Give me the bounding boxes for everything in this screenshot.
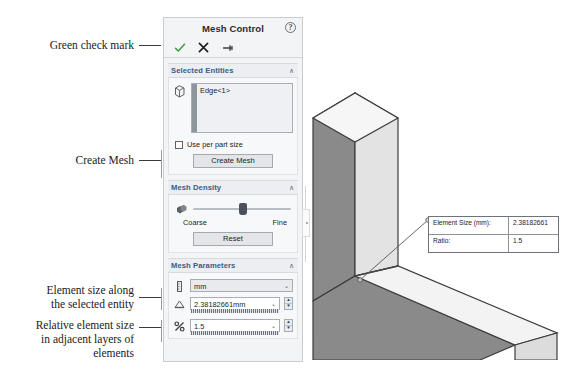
panel-title-bar: Mesh Control ?	[164, 18, 302, 38]
ratio-stepper[interactable]: ▲ ▼	[284, 319, 293, 332]
element-size-stepper[interactable]: ▲ ▼	[284, 297, 293, 310]
leader-line-ratio	[139, 327, 161, 328]
use-per-part-size-checkbox[interactable]	[175, 141, 183, 149]
section-selected-entities: Selected Entities ∧ Edge<1>	[168, 63, 298, 175]
mesh-density-icon	[175, 202, 188, 215]
section-header-selected-entities[interactable]: Selected Entities ∧	[168, 63, 298, 78]
section-body-mesh-parameters: mm ⌄ 2.38182661mm ⌄ ▲ ▼	[168, 273, 298, 339]
callout-value-ratio: 1.5	[509, 235, 558, 253]
units-value: mm	[194, 282, 206, 291]
page-title: Mesh Control	[202, 23, 264, 34]
slider-endpoint-labels: Coarse Fine	[173, 215, 293, 227]
help-icon[interactable]: ?	[285, 22, 296, 33]
panel-toolbar	[164, 38, 302, 58]
callout-key-element-size: Element Size (mm):	[429, 217, 509, 234]
mesh-control-panel: Mesh Control ? Selected Entities ∧	[163, 17, 303, 362]
ratio-percent-icon	[173, 319, 186, 332]
section-title-selected-entities: Selected Entities	[171, 66, 233, 75]
ratio-value: 1.5	[194, 322, 204, 331]
reset-button[interactable]: Reset	[193, 232, 273, 246]
guide-stub-lower	[161, 320, 162, 342]
callout-value-element-size: 2.38182661	[509, 217, 558, 234]
list-item[interactable]: Edge<1>	[200, 86, 230, 95]
chevron-down-icon-units[interactable]: ⌄	[284, 283, 289, 289]
units-row: mm ⌄	[173, 279, 293, 292]
stepper-down-icon-ratio[interactable]: ▼	[285, 326, 292, 332]
chevron-down-icon-element-size[interactable]: ⌄	[271, 301, 276, 307]
ratio-hatch-bar	[191, 331, 279, 335]
leader-line-check	[139, 45, 161, 46]
callout-key-ratio: Ratio:	[429, 235, 509, 253]
stepper-down-icon-element-size[interactable]: ▼	[285, 304, 292, 310]
chevron-up-icon-mesh-parameters[interactable]: ∧	[289, 262, 294, 269]
guide-stub-upper	[161, 150, 162, 178]
chevron-up-icon-mesh-density[interactable]: ∧	[289, 184, 294, 191]
element-size-icon	[173, 297, 186, 310]
chevron-down-icon-ratio[interactable]: ⌄	[271, 323, 276, 329]
screenshot-root: Green check mark Create Mesh Element siz…	[0, 0, 566, 385]
annotation-create-mesh: Create Mesh	[6, 153, 134, 167]
section-body-mesh-density: Coarse Fine Reset	[168, 195, 298, 253]
annotation-relative-element-size: Relative element size in adjacent layers…	[6, 318, 134, 360]
pin-icon[interactable]	[221, 41, 234, 54]
units-select[interactable]: mm ⌄	[190, 279, 293, 292]
entity-selector-row: Edge<1>	[173, 83, 293, 133]
leader-line-create-mesh	[139, 160, 161, 161]
mesh-density-slider-row	[173, 200, 293, 215]
annotation-element-size: Element size along the selected entity	[6, 283, 134, 311]
element-size-value: 2.38182661mm	[194, 300, 245, 309]
coarse-label: Coarse	[183, 218, 207, 227]
slider-handle[interactable]	[239, 203, 247, 215]
list-gutter	[192, 84, 197, 132]
section-header-mesh-parameters[interactable]: Mesh Parameters ∧	[168, 258, 298, 273]
section-header-mesh-density[interactable]: Mesh Density ∧	[168, 180, 298, 195]
section-body-selected-entities: Edge<1> Use per part size Create Mesh	[168, 78, 298, 175]
element-size-input[interactable]: 2.38182661mm ⌄	[190, 297, 280, 310]
chevron-up-icon-selected-entities[interactable]: ∧	[289, 67, 294, 74]
callout-row-ratio: Ratio: 1.5	[429, 235, 558, 253]
use-per-part-size-row[interactable]: Use per part size	[173, 140, 293, 149]
ratio-row: 1.5 ⌄ ▲ ▼	[173, 319, 293, 332]
section-mesh-parameters: Mesh Parameters ∧ mm ⌄	[168, 258, 298, 339]
cancel-close-icon[interactable]	[197, 41, 210, 54]
accept-check-icon[interactable]	[173, 41, 186, 54]
annotation-green-check-mark: Green check mark	[6, 38, 134, 52]
create-mesh-button[interactable]: Create Mesh	[193, 154, 273, 168]
element-size-hatch-bar	[191, 309, 279, 313]
leader-line-element-size	[139, 297, 161, 298]
section-title-mesh-parameters: Mesh Parameters	[171, 261, 235, 270]
selected-entities-list[interactable]: Edge<1>	[191, 83, 293, 133]
section-title-mesh-density: Mesh Density	[171, 183, 221, 192]
section-mesh-density: Mesh Density ∧	[168, 180, 298, 253]
element-size-row: 2.38182661mm ⌄ ▲ ▼	[173, 297, 293, 310]
element-size-callout: Element Size (mm): 2.38182661 Ratio: 1.5	[428, 216, 559, 253]
selected-edge-anchor-dot	[358, 278, 362, 282]
use-per-part-size-label: Use per part size	[187, 140, 243, 149]
cube-entity-icon	[173, 84, 187, 99]
guide-stub-mid	[161, 288, 162, 310]
units-ruler-icon	[173, 279, 186, 292]
fine-label: Fine	[273, 218, 287, 227]
callout-row-element-size: Element Size (mm): 2.38182661	[429, 217, 558, 235]
mesh-density-slider[interactable]	[193, 203, 291, 215]
ratio-input[interactable]: 1.5 ⌄	[190, 319, 280, 332]
